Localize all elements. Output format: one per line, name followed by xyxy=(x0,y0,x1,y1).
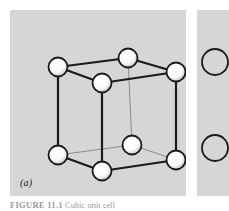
atom-sphere xyxy=(119,49,138,68)
figure-caption-number: FIGURE 11.1 xyxy=(10,200,63,210)
panel-b-atoms xyxy=(202,49,228,161)
lattice-edge-top-back-left--top-back-right xyxy=(58,58,128,67)
lattice-edge-bottom-front-right--bottom-front-left xyxy=(102,160,176,171)
figure-root: (a) FIGURE 11.1 Cubic unit cell xyxy=(0,0,229,211)
atom-sphere xyxy=(167,151,186,170)
lattice-atom-top-back-left xyxy=(49,58,68,77)
lattice-edge-vertical-back-right xyxy=(128,58,132,145)
cubic-unit-cell-diagram xyxy=(10,10,186,196)
lattice-atom-top-front-right xyxy=(167,63,186,82)
figure-caption-text: Cubic unit cell xyxy=(65,200,115,210)
panel-b-atom-upper xyxy=(202,49,228,75)
atom-sphere xyxy=(93,162,112,181)
lattice-atom-top-front-left xyxy=(93,74,112,93)
atom-sphere xyxy=(167,63,186,82)
lattice-atom-bottom-front-left xyxy=(93,162,112,181)
panel-a-label: (a) xyxy=(20,178,32,188)
lattice-edge-bottom-back-left--bottom-back-right xyxy=(58,145,132,155)
figure-caption: FIGURE 11.1 Cubic unit cell xyxy=(10,200,229,211)
panel-b-atom-lower xyxy=(202,135,228,161)
atom-sphere xyxy=(123,136,142,155)
figure-panel-b xyxy=(197,10,229,196)
figure-panel-a: (a) xyxy=(10,10,186,196)
atom-sphere xyxy=(49,58,68,77)
lattice-atom-bottom-front-right xyxy=(167,151,186,170)
panel-b-diagram xyxy=(197,10,229,196)
atom-sphere xyxy=(93,74,112,93)
lattice-atom-top-back-right xyxy=(119,49,138,68)
atom-sphere xyxy=(49,146,68,165)
lattice-atom-bottom-back-right xyxy=(123,136,142,155)
lattice-atom-bottom-back-left xyxy=(49,146,68,165)
lattice-edge-top-front-right--top-front-left xyxy=(102,72,176,83)
